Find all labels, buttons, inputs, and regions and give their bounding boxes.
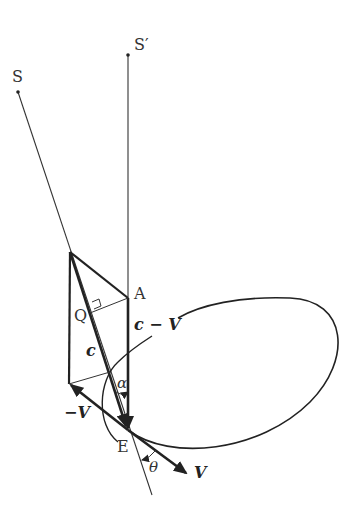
vector-c (70, 252, 126, 426)
label-a: A (133, 284, 146, 303)
label-c: c (86, 341, 96, 360)
label-q: Q (74, 306, 87, 325)
segment-top-to-negv (69, 252, 70, 384)
line-s-to-e (18, 92, 152, 495)
label-theta: θ (149, 458, 158, 476)
label-neg-v: −V (64, 403, 91, 422)
label-sprime: S′ (134, 35, 149, 54)
label-alpha: α (117, 374, 127, 392)
right-angle-mark (92, 299, 101, 309)
segment-negv-to-c (69, 372, 110, 384)
label-v: V (194, 463, 208, 482)
label-c-minus-v: c − V (134, 315, 182, 334)
label-e: E (117, 437, 129, 456)
point-s (16, 90, 20, 94)
point-sprime (126, 53, 130, 57)
diagram-canvas: S S′ A Q E c c − V −V V α θ (0, 0, 347, 518)
label-s: S (12, 67, 23, 86)
